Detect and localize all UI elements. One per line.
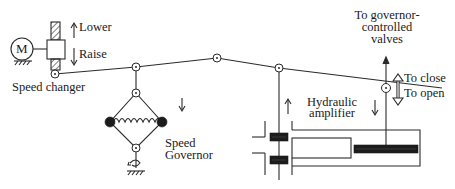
- flyball-right: [157, 117, 167, 127]
- valves-label-line3: valves: [345, 33, 429, 46]
- governor-diagram: M Lower Raise Speed changer Speed Govern…: [0, 0, 455, 189]
- piston-rod: [383, 57, 389, 148]
- lower-label: Lower: [79, 21, 112, 34]
- piston-motion-arrow-icon: [372, 100, 378, 115]
- speed-governor-label-line2: Governor: [165, 149, 213, 162]
- pilot-valve-icon: [252, 121, 292, 175]
- hydraulic-amplifier-label-line2: amplifier: [302, 107, 362, 120]
- to-close-label: To close: [404, 72, 446, 85]
- to-open-label: To open: [404, 87, 444, 100]
- raise-label: Raise: [79, 48, 107, 61]
- close-open-arrow-icon: [393, 74, 403, 105]
- speed-changer-label: Speed changer: [12, 81, 85, 94]
- pilot-motion-arrow-icon: [285, 99, 291, 114]
- motor-label: M: [16, 42, 28, 55]
- lower-arrow-icon: [71, 23, 77, 38]
- flyball-left: [105, 117, 115, 127]
- speed-changer-icon: [47, 22, 65, 71]
- raise-arrow-icon: [71, 48, 77, 65]
- speed-governor-icon: [110, 93, 162, 175]
- governor-motion-arrow-icon: [179, 98, 185, 111]
